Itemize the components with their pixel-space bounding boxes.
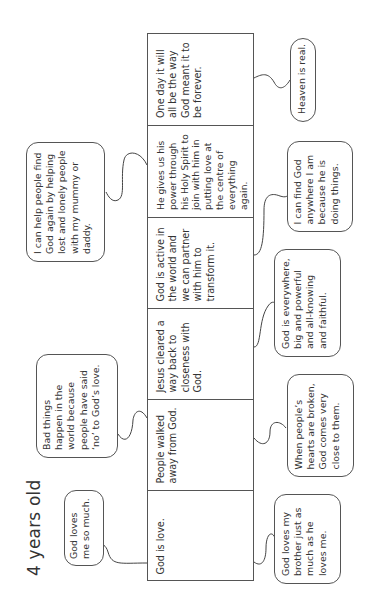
stage-text: God is love.	[148, 489, 253, 580]
bubble-text: I can find God anywhere I am because he …	[287, 141, 353, 232]
bubble-heaven: Heaven is real.	[290, 38, 316, 122]
stage-text: Jesus cleared a way back to closeness wi…	[148, 307, 253, 398]
bubble-text: I can help people find God again by help…	[26, 142, 105, 262]
stage-cell-2: People walked away from God.	[148, 398, 253, 489]
stage-text: God is active in the world and we can pa…	[148, 216, 253, 307]
stage-cell-3: Jesus cleared a way back to closeness wi…	[148, 307, 253, 398]
stage-cell-4: God is active in the world and we can pa…	[148, 216, 253, 307]
bubble-text: God is everywhere, big and powerful and …	[274, 249, 341, 357]
bubble-find-god: I can find God anywhere I am because he …	[287, 141, 353, 232]
connector-right-4	[254, 194, 288, 255]
stage-cell-1: God is love.	[148, 489, 253, 580]
stage-cell-5: He gives us his power through his Holy S…	[148, 124, 253, 216]
stage-text: One day it will all be the way God meant…	[148, 34, 253, 124]
stage-text: People walked away from God.	[148, 398, 253, 489]
connector-left-3	[106, 153, 147, 201]
page-title-wrap: 4 years old	[24, 496, 44, 576]
bubble-text: God loves me so much.	[64, 490, 104, 566]
bubble-hearts-broken: When people’s hearts are broken, God com…	[287, 374, 354, 477]
connector-right-5	[254, 75, 290, 88]
bubble-god-everywhere: God is everywhere, big and powerful and …	[274, 249, 341, 357]
connector-right-3	[254, 302, 276, 347]
stage-cell-6: One day it will all be the way God meant…	[148, 34, 253, 124]
page-title: 4 years old	[24, 496, 44, 576]
bubble-brother: God loves my brother just as much as he …	[274, 494, 341, 584]
bubble-text: Bad things happen in the world because p…	[36, 354, 118, 458]
connector-right-1	[254, 534, 275, 564]
bubble-text: God loves my brother just as much as he …	[274, 494, 341, 584]
connector-right-2	[254, 422, 286, 443]
bubble-bad-things: Bad things happen in the world because p…	[36, 354, 118, 458]
bubble-text: Heaven is real.	[290, 38, 316, 122]
bubble-god-loves-me: God loves me so much.	[64, 490, 104, 566]
stage-text: He gives us his power through his Holy S…	[148, 124, 253, 216]
bubble-help-people: I can help people find God again by help…	[26, 142, 105, 262]
bubble-text: When people’s hearts are broken, God com…	[287, 374, 354, 477]
connector-left-2	[118, 411, 147, 439]
